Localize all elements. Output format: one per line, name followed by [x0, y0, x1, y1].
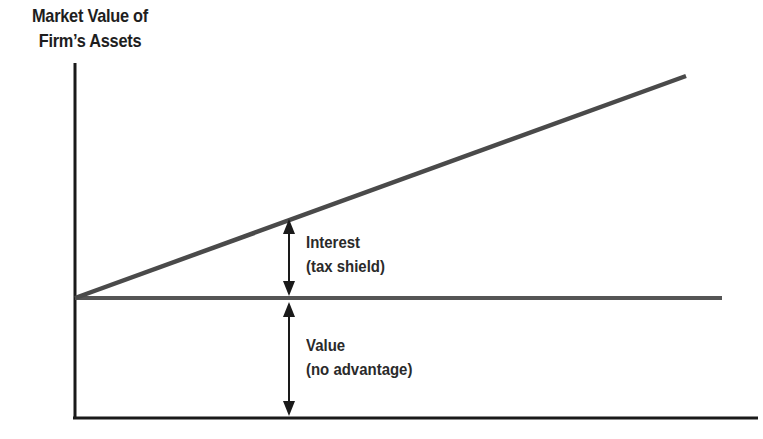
value-label-line1: Value	[306, 334, 412, 358]
value-label-line2: (no advantage)	[306, 358, 412, 382]
value-annotation: Value (no advantage)	[306, 334, 412, 382]
tax-shield-label-line1: Interest	[306, 231, 385, 255]
value-arrow-icon	[283, 302, 295, 416]
tax-shield-arrow-icon	[283, 219, 295, 296]
tax-shield-label-line2: (tax shield)	[306, 255, 385, 279]
tax-shield-annotation: Interest (tax shield)	[306, 231, 385, 279]
